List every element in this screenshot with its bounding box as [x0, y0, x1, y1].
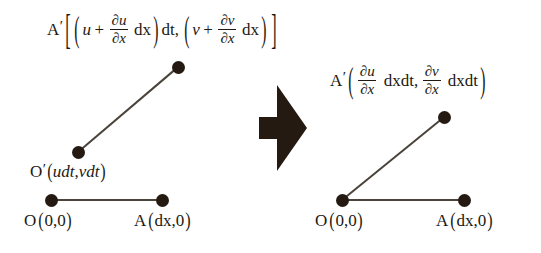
left-term2-fraction-denominator: ∂x	[218, 29, 236, 46]
left-formula-a-prime: A′ [ ( u + ∂u ∂x dx ) dt , ( v + ∂v ∂x d…	[47, 13, 278, 47]
right-o-open-paren: (	[329, 210, 334, 231]
left-term2-fraction: ∂v ∂x	[218, 13, 236, 47]
arrow-right-icon	[259, 85, 307, 171]
right-o-point: O	[315, 211, 327, 230]
right-o-coord-y: 0	[348, 211, 357, 230]
left-formula-open-bracket: [	[65, 9, 70, 51]
left-formula-close-bracket: ]	[271, 9, 276, 51]
left-point-o-prime	[72, 146, 85, 159]
left-point-a	[156, 194, 169, 207]
right-a-point: A	[436, 211, 448, 230]
right-point-a	[458, 194, 471, 207]
left-term2-variable: v	[192, 21, 200, 38]
right-label-a: A(dx,0)	[436, 212, 493, 229]
right-point-a-prime	[438, 111, 451, 124]
left-segment-oprime-aprime	[77, 66, 178, 152]
left-term1-fraction-denominator: ∂x	[110, 29, 128, 46]
left-oprime-point: O	[30, 162, 42, 181]
fluid-deformation-figure: A′ [ ( u + ∂u ∂x dx ) dt , ( v + ∂v ∂x d…	[0, 0, 541, 253]
left-term2-close-paren: )	[262, 12, 267, 49]
left-a-open-paren: (	[148, 210, 153, 231]
right-term1-differential: dxdt	[384, 72, 414, 89]
right-term2-differential: dxdt	[448, 72, 478, 89]
right-point-o	[336, 194, 349, 207]
left-o-close-paren: )	[66, 210, 71, 231]
right-label-o: O(0,0)	[315, 212, 363, 229]
right-formula-prime: ′	[342, 70, 346, 85]
right-o-close-paren: )	[357, 210, 362, 231]
right-o-coord-x: 0	[335, 211, 344, 230]
left-a-coord-x: dx	[154, 211, 171, 230]
right-a-coord-x: dx	[456, 211, 473, 230]
right-formula-open-paren: (	[348, 63, 353, 98]
right-term1-fraction: ∂u ∂x	[358, 64, 377, 98]
left-formula-label: A	[47, 21, 59, 38]
left-oprime-coord-x: udt	[53, 162, 75, 181]
left-term1-trailing-dt: dt	[162, 21, 175, 38]
right-term2-fraction: ∂v ∂x	[423, 64, 441, 98]
left-segment-oa	[51, 199, 162, 201]
left-a-point: A	[134, 211, 146, 230]
left-o-point: O	[24, 211, 36, 230]
transformation-arrow	[259, 85, 307, 175]
left-term1-close-paren: )	[154, 12, 159, 49]
left-formula-comma: ,	[175, 21, 182, 38]
left-o-coord-y: 0	[57, 211, 66, 230]
right-a-coord-y: 0	[478, 211, 487, 230]
left-a-close-paren: )	[185, 210, 190, 231]
right-a-open-paren: (	[450, 210, 455, 231]
left-term1-open-paren: (	[74, 12, 79, 49]
left-a-coord-y: 0	[176, 211, 185, 230]
left-o-open-paren: (	[38, 210, 43, 231]
left-label-o-prime: O′(udt,vdt)	[30, 163, 106, 180]
left-oprime-close-paren: )	[100, 161, 105, 182]
left-term1-differential: dx	[134, 21, 151, 38]
left-oprime-prime: ′	[42, 161, 46, 177]
left-term1-fraction: ∂u ∂x	[110, 13, 129, 47]
left-point-o	[45, 194, 58, 207]
left-oprime-open-paren: (	[47, 161, 52, 182]
left-term1-variable: u	[82, 21, 91, 38]
left-term2-plus: +	[203, 21, 213, 38]
right-term2-fraction-numerator: ∂v	[423, 64, 441, 80]
left-point-a-prime	[172, 61, 185, 74]
left-term2-open-paren: (	[184, 12, 189, 49]
left-term1-plus: +	[94, 21, 104, 38]
left-term2-differential: dx	[242, 21, 259, 38]
right-term1-fraction-denominator: ∂x	[358, 80, 376, 97]
right-term2-fraction-denominator: ∂x	[423, 80, 441, 97]
left-term1-fraction-numerator: ∂u	[110, 13, 129, 29]
left-term2-fraction-numerator: ∂v	[218, 13, 236, 29]
left-formula-prime: ′	[59, 19, 63, 34]
right-segment-oa	[342, 199, 464, 201]
right-formula-label: A	[330, 72, 342, 89]
left-label-a: A(dx,0)	[134, 212, 191, 229]
right-segment-o-aprime	[341, 116, 444, 200]
right-term1-fraction-numerator: ∂u	[358, 64, 377, 80]
right-formula-comma: ,	[414, 72, 421, 89]
left-label-o: O(0,0)	[24, 212, 72, 229]
right-formula-close-paren: )	[480, 63, 485, 98]
left-oprime-coord-y: vdt	[79, 162, 100, 181]
left-o-coord-x: 0	[44, 211, 53, 230]
right-formula-a-prime: A′ ( ∂u ∂x dxdt , ∂v ∂x dxdt )	[330, 64, 488, 98]
right-a-close-paren: )	[487, 210, 492, 231]
